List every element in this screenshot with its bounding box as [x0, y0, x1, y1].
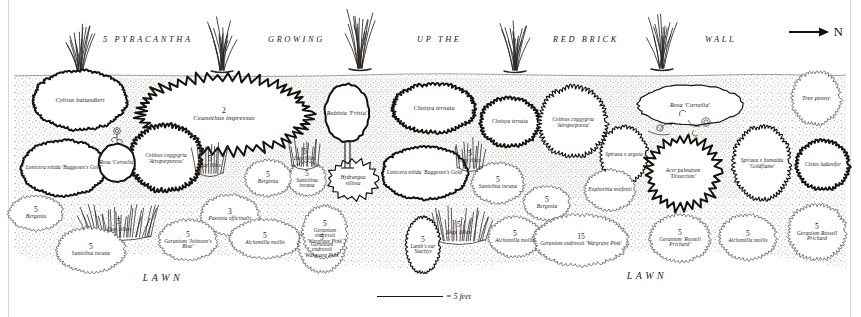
plan-artwork	[0, 0, 861, 317]
lawn-label: LAWN	[627, 270, 668, 281]
north-label: N	[834, 24, 843, 40]
banner-word: GROWING	[268, 35, 325, 44]
plant-shape	[99, 144, 135, 183]
plant-shape	[325, 83, 370, 142]
banner-word: UP THE	[417, 35, 462, 44]
scale-bar: = 5 feet	[377, 292, 471, 301]
banner-word: RED BRICK	[553, 35, 619, 44]
garden-planting-plan: 5 PYRACANTHAGROWINGUP THERED BRICKWALL N…	[0, 0, 861, 317]
plant-shape	[795, 139, 851, 190]
lawn-label: LAWN	[143, 272, 184, 283]
plant-shape	[158, 219, 218, 261]
north-arrow: N	[788, 24, 843, 40]
scale-bar-rule	[377, 296, 443, 297]
arrow-right-icon	[788, 25, 830, 39]
plant-shape	[382, 146, 469, 201]
plant-shape	[33, 69, 128, 130]
banner-word: WALL	[705, 35, 736, 44]
plant-shape	[479, 96, 541, 147]
scale-bar-label: = 5 feet	[446, 292, 471, 301]
banner-word: 5 PYRACANTHA	[103, 35, 193, 44]
